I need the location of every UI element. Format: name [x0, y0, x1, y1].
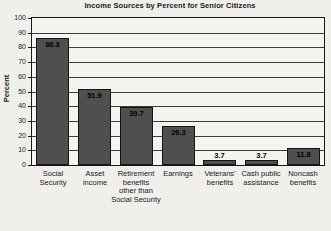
- plot-area: 86.351.939.726.33.73.711.8: [31, 17, 325, 166]
- y-tick-label: 60: [2, 73, 26, 80]
- bar-value-label: 39.7: [120, 109, 153, 118]
- y-axis-tick: [28, 62, 31, 63]
- y-axis-tick: [28, 47, 31, 48]
- y-tick-label: 80: [2, 43, 26, 50]
- gridline: [32, 77, 324, 78]
- bar: [245, 160, 278, 165]
- gridline: [32, 106, 324, 107]
- y-tick-label: 40: [2, 102, 26, 109]
- bar-value-label: 26.3: [162, 128, 195, 137]
- y-axis-tick: [28, 33, 31, 34]
- y-axis-tick: [28, 18, 31, 19]
- gridline: [32, 47, 324, 48]
- gridline: [32, 62, 324, 63]
- y-tick-label: 50: [2, 88, 26, 95]
- bar: [78, 89, 111, 165]
- y-axis-tick: [28, 165, 31, 166]
- y-tick-label: 70: [2, 58, 26, 65]
- y-axis-tick: [28, 150, 31, 151]
- bar-value-label: 51.9: [78, 91, 111, 100]
- y-tick-label: 0: [2, 161, 26, 168]
- y-axis-tick: [28, 136, 31, 137]
- bar-value-label: 3.7: [245, 151, 278, 160]
- bar: [36, 38, 69, 165]
- y-axis-tick: [28, 77, 31, 78]
- gridline: [32, 92, 324, 93]
- category-label: Noncash benefits: [277, 170, 329, 187]
- bar-value-label: 11.8: [287, 150, 320, 159]
- gridline: [32, 121, 324, 122]
- y-tick-label: 20: [2, 132, 26, 139]
- y-axis-tick: [28, 106, 31, 107]
- bar: [203, 160, 236, 165]
- bar-chart: Income Sources by Percent for Senior Cit…: [0, 0, 331, 231]
- y-tick-label: 100: [2, 14, 26, 21]
- y-tick-label: 30: [2, 117, 26, 124]
- bar-value-label: 3.7: [203, 151, 236, 160]
- y-tick-label: 10: [2, 146, 26, 153]
- bar-value-label: 86.3: [36, 40, 69, 49]
- y-tick-label: 90: [2, 29, 26, 36]
- chart-title: Income Sources by Percent for Senior Cit…: [20, 1, 320, 10]
- gridline: [32, 33, 324, 34]
- y-axis-tick: [28, 92, 31, 93]
- y-axis-tick: [28, 121, 31, 122]
